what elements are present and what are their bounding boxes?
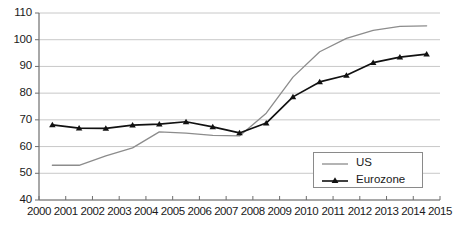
- x-axis-tick-label: 2012: [346, 205, 374, 217]
- x-axis-tick-label: 2015: [426, 205, 454, 217]
- y-axis-tick-label: 60: [2, 140, 32, 152]
- x-axis-tick-label: 2009: [266, 205, 294, 217]
- legend-item-eurozone: Eurozone: [320, 171, 405, 187]
- y-axis-tick-label: 100: [2, 33, 32, 45]
- x-axis-tick-label: 2002: [78, 205, 106, 217]
- y-axis-tick-label: 70: [2, 113, 32, 125]
- y-axis-tick-label: 40: [2, 193, 32, 205]
- y-axis-tick-label: 90: [2, 59, 32, 71]
- x-axis-tick-label: 2001: [52, 205, 80, 217]
- x-axis-tick-label: 2004: [132, 205, 160, 217]
- chart-legend: US Eurozone: [313, 152, 423, 188]
- legend-swatch-us: [320, 156, 350, 168]
- x-axis-tick-label: 2006: [185, 205, 213, 217]
- legend-item-us: US: [320, 154, 372, 170]
- y-axis-tick-label: 50: [2, 166, 32, 178]
- x-axis-tick-label: 2010: [292, 205, 320, 217]
- data-series-layer: [49, 26, 430, 165]
- series-line-us: [52, 26, 426, 165]
- x-axis-tick-label: 2000: [25, 205, 53, 217]
- legend-label-eurozone: Eurozone: [356, 173, 405, 185]
- x-axis-tick-label: 2014: [399, 205, 427, 217]
- x-axis-tick-label: 2011: [319, 205, 347, 217]
- x-axis-tick-label: 2007: [212, 205, 240, 217]
- x-axis-tick-label: 2005: [159, 205, 187, 217]
- x-axis-tick-label: 2008: [239, 205, 267, 217]
- x-axis-tick-label: 2013: [373, 205, 401, 217]
- x-axis-tick-label: 2003: [105, 205, 133, 217]
- legend-label-us: US: [356, 156, 372, 168]
- y-axis-tick-label: 110: [2, 6, 32, 18]
- y-axis-tick-label: 80: [2, 86, 32, 98]
- legend-swatch-eurozone: [320, 173, 350, 185]
